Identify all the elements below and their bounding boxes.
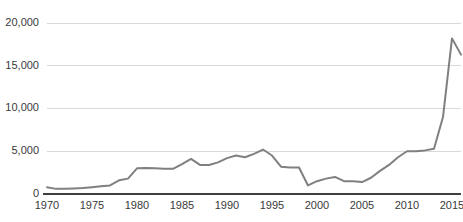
x-axis-tick-label: 2005 xyxy=(350,199,374,211)
x-axis-tick-labels: 1970197519801985199019952000200520102015 xyxy=(35,199,463,211)
x-axis-tick-label: 2010 xyxy=(395,199,419,211)
x-axis-tick-label: 1990 xyxy=(215,199,239,211)
x-axis-tick-label: 1975 xyxy=(80,199,104,211)
y-axis-tick-label: 0 xyxy=(33,187,39,199)
x-axis-tick-label: 2000 xyxy=(305,199,329,211)
gridlines xyxy=(47,23,461,151)
x-axis-tick-label: 1985 xyxy=(170,199,194,211)
y-axis-tick-label: 15,000 xyxy=(5,59,39,71)
x-axis-tick-label: 2015 xyxy=(440,199,463,211)
x-axis-tick-label: 1970 xyxy=(35,199,59,211)
line-chart: 20,00015,00010,0005,0000 197019751980198… xyxy=(0,0,463,222)
x-axis-tick-label: 1995 xyxy=(260,199,284,211)
y-axis-tick-label: 20,000 xyxy=(5,16,39,28)
y-axis-tick-label: 10,000 xyxy=(5,101,39,113)
data-series-line xyxy=(47,38,461,188)
x-axis-tick-label: 1980 xyxy=(125,199,149,211)
chart-canvas: 20,00015,00010,0005,0000 197019751980198… xyxy=(0,0,463,222)
y-axis-tick-labels: 20,00015,00010,0005,0000 xyxy=(5,16,39,199)
y-axis-tick-label: 5,000 xyxy=(11,144,39,156)
